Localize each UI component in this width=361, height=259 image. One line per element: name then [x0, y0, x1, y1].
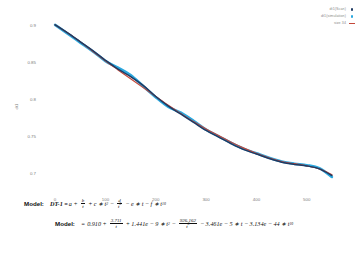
legend-marker-size34-icon	[349, 21, 355, 26]
y-axis-title: dt1	[14, 104, 19, 110]
eq2-lhs: =	[81, 220, 85, 227]
eq1-dot3: ∗	[135, 200, 140, 207]
legend-item-simulation[interactable]: dt1(simulation)	[321, 14, 355, 19]
model-label-2: Model:	[55, 220, 75, 227]
y-tick-label: 0.8	[30, 96, 36, 101]
legend-marker-scan-icon	[349, 7, 355, 12]
eq1-op2: +	[88, 200, 92, 207]
eq1-dot4: ∗	[154, 200, 159, 207]
y-tick-label: 0.85	[27, 59, 36, 64]
model-equation-1: DT-1 = a + b t + c ∗ t2 − d t3 − e ∗	[50, 198, 166, 209]
eq1-op3: −	[110, 200, 114, 207]
eq1-op4: −	[125, 200, 129, 207]
eq1-fraction-2: d t3	[117, 198, 122, 209]
chart-container: dt1(Scan) dt1(simulation) size 34 dt1	[0, 0, 361, 200]
eq2-dot3: ∗	[234, 220, 239, 227]
eq2-term-f: 3.134e − 44	[250, 220, 280, 227]
model-equation-2: = 0.910 + 3.711 t + 1.441e − 9 ∗ t2 − 92…	[81, 218, 293, 229]
eq1-term-a: a	[69, 200, 72, 207]
eq1-dot2: ∗	[98, 200, 103, 207]
eq2-term-e-var: t	[241, 220, 243, 227]
eq1-frac2-denominator: t3	[117, 204, 122, 209]
eq1-fraction-1: b t	[81, 198, 86, 209]
series-line-1	[55, 25, 332, 177]
legend-label-scan: dt1(Scan)	[330, 7, 346, 12]
legend-item-size34[interactable]: size 34	[334, 21, 355, 26]
eq1-op5: −	[145, 200, 149, 207]
eq2-fraction-2: 926.162 t3	[179, 218, 197, 229]
eq2-term-a: 0.910	[87, 220, 101, 227]
y-tick-label: 0.7	[30, 170, 36, 175]
eq2-term-c: 1.441e − 9	[131, 220, 158, 227]
screenshot-root: dt1(Scan) dt1(simulation) size 34 dt1	[0, 0, 361, 259]
legend-label-size34: size 34	[334, 21, 346, 26]
model-row-general: Model: DT-1 = a + b t + c ∗ t2 − d t3 −	[0, 198, 361, 209]
legend-label-simulation: dt1(simulation)	[321, 14, 346, 19]
eq2-op3: −	[171, 220, 175, 227]
eq1-frac1-denominator: t	[81, 204, 84, 209]
eq2-frac2-denominator: t3	[185, 224, 190, 229]
eq1-frac2-den-exp: 3	[119, 202, 121, 206]
eq2-dot4: ∗	[281, 220, 286, 227]
chart-legend: dt1(Scan) dt1(simulation) size 34	[293, 7, 355, 26]
legend-marker-simulation-icon	[349, 14, 355, 19]
model-equations: Model: DT-1 = a + b t + c ∗ t2 − d t3 −	[0, 198, 361, 229]
eq2-frac1-denominator: t	[114, 224, 117, 229]
eq1-lhs: DT-1 =	[50, 200, 68, 207]
eq2-dot2: ∗	[160, 220, 165, 227]
eq1-term-e: e	[131, 200, 134, 207]
eq2-term-e: 3.461e − 5	[206, 220, 233, 227]
eq2-op2: +	[126, 220, 130, 227]
eq2-frac2-den-exp: 3	[188, 222, 190, 226]
model-row-fitted: Model: = 0.910 + 3.711 t + 1.441e − 9 ∗ …	[0, 218, 361, 229]
series-line-0	[55, 25, 332, 176]
eq2-op4: −	[200, 220, 204, 227]
eq2-fraction-1: 3.711 t	[110, 218, 123, 229]
eq1-op1: +	[73, 200, 77, 207]
eq1-term-f: f	[151, 200, 153, 207]
y-tick-label: 0.75	[27, 133, 36, 138]
series-line-2	[55, 25, 332, 175]
eq1-term-e-var: t	[142, 200, 144, 207]
eq1-term-c: c	[94, 200, 97, 207]
eq2-op1: +	[103, 220, 107, 227]
legend-item-scan[interactable]: dt1(Scan)	[330, 7, 355, 12]
eq2-op5: −	[244, 220, 248, 227]
chart-svg	[40, 16, 342, 191]
model-label-1: Model:	[24, 200, 44, 207]
plot-area: 0.90.850.80.750.7 0100200300400500	[40, 16, 342, 191]
y-tick-label: 0.9	[30, 22, 36, 27]
